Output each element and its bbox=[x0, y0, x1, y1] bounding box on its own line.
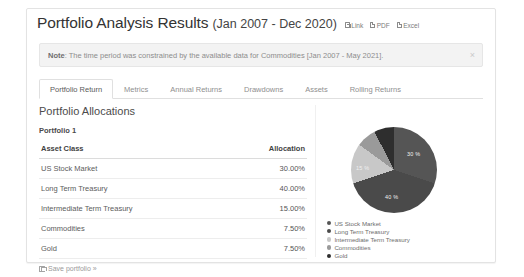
allocations-section: Portfolio Allocations Portfolio 1 Asset … bbox=[39, 105, 307, 272]
tab-portfolio-return[interactable]: Portfolio Return bbox=[39, 79, 113, 99]
table-row: Gold 7.50% bbox=[39, 239, 307, 259]
tab-metrics[interactable]: Metrics bbox=[113, 79, 159, 99]
column-allocation: Allocation bbox=[228, 139, 307, 159]
legend-color-swatch bbox=[327, 229, 331, 233]
legend-item: Intermediate Term Treasury bbox=[327, 235, 507, 243]
pie-slice-label-long-term-treasury: 40 % bbox=[385, 194, 398, 200]
legend-label: Gold bbox=[334, 252, 347, 259]
legend-label: Long Term Treasury bbox=[334, 228, 389, 235]
table-row: US Stock Market 30.00% bbox=[39, 159, 307, 179]
page-title: Portfolio Analysis Results bbox=[37, 14, 208, 32]
cell-allocation: 15.00% bbox=[228, 199, 307, 219]
note-body: : The time period was constrained by the… bbox=[65, 51, 384, 60]
note-prefix: Note bbox=[48, 51, 65, 60]
screenshot-root: Portfolio Analysis Results (Jan 2007 - D… bbox=[0, 0, 524, 277]
save-portfolio-link[interactable]: Save portfolio » bbox=[48, 265, 97, 272]
legend-label: US Stock Market bbox=[334, 220, 380, 227]
table-row: Commodities 7.50% bbox=[39, 219, 307, 239]
legend-label: Intermediate Term Treasury bbox=[334, 236, 410, 243]
link-export-pdf-label: PDF bbox=[377, 22, 390, 29]
portfolio-name: Portfolio 1 bbox=[39, 126, 307, 135]
page-title-row: Portfolio Analysis Results (Jan 2007 - D… bbox=[37, 14, 485, 36]
chart-legend: US Stock Market Long Term Treasury Inter… bbox=[327, 219, 507, 260]
note-alert: Note: The time period was constrained by… bbox=[39, 43, 483, 67]
cell-allocation: 7.50% bbox=[228, 239, 307, 259]
tab-drawdowns[interactable]: Drawdowns bbox=[233, 79, 294, 99]
legend-item: Commodities bbox=[327, 244, 507, 252]
pie-wrap: 30 % 40 % 15 % bbox=[351, 127, 437, 213]
cell-asset-class: Commodities bbox=[39, 219, 228, 239]
save-icon bbox=[39, 266, 45, 272]
cell-allocation: 30.00% bbox=[228, 159, 307, 179]
save-portfolio-row: Save portfolio » bbox=[39, 265, 307, 272]
pie-slice-label-intermediate-term-treasury: 15 % bbox=[356, 165, 369, 171]
pie-slice-label-us-stock-market: 30 % bbox=[407, 151, 420, 157]
link-export-excel-label: Excel bbox=[403, 22, 419, 29]
link-export-link-label: Link bbox=[351, 22, 363, 29]
cell-allocation: 40.00% bbox=[228, 179, 307, 199]
legend-item: Gold bbox=[327, 252, 507, 260]
legend-item: US Stock Market bbox=[327, 219, 507, 227]
export-links: Link PDF Excel bbox=[345, 22, 419, 29]
legend-item: Long Term Treasury bbox=[327, 227, 507, 235]
table-row: Intermediate Term Treasury 15.00% bbox=[39, 199, 307, 219]
cell-allocation: 7.50% bbox=[228, 219, 307, 239]
legend-color-swatch bbox=[327, 221, 331, 225]
tab-annual-returns[interactable]: Annual Returns bbox=[159, 79, 233, 99]
legend-color-swatch bbox=[327, 254, 331, 258]
tab-assets[interactable]: Assets bbox=[294, 79, 339, 99]
column-divider bbox=[315, 105, 316, 257]
link-export-pdf[interactable]: PDF bbox=[370, 22, 390, 29]
allocations-table: Asset Class Allocation US Stock Market 3… bbox=[39, 139, 307, 259]
document-icon bbox=[397, 22, 402, 28]
page-title-date-range: (Jan 2007 - Dec 2020) bbox=[212, 17, 336, 31]
legend-color-swatch bbox=[327, 237, 331, 241]
cell-asset-class: Long Term Treasury bbox=[39, 179, 228, 199]
allocation-pie-chart: 30 % 40 % 15 % US Stock Market Long Term… bbox=[323, 127, 513, 259]
table-row: Long Term Treasury 40.00% bbox=[39, 179, 307, 199]
note-text: Note: The time period was constrained by… bbox=[48, 51, 383, 60]
cell-asset-class: US Stock Market bbox=[39, 159, 228, 179]
document-icon bbox=[370, 22, 375, 28]
link-export-excel[interactable]: Excel bbox=[397, 22, 419, 29]
legend-label: Commodities bbox=[334, 244, 370, 251]
column-asset-class: Asset Class bbox=[39, 139, 228, 159]
section-title: Portfolio Allocations bbox=[39, 105, 307, 117]
tab-bar: Portfolio Return Metrics Annual Returns … bbox=[39, 79, 483, 99]
cell-asset-class: Intermediate Term Treasury bbox=[39, 199, 228, 219]
external-link-icon bbox=[345, 22, 350, 28]
legend-color-swatch bbox=[327, 245, 331, 249]
cell-asset-class: Gold bbox=[39, 239, 228, 259]
note-close-icon[interactable]: × bbox=[470, 51, 475, 60]
tab-rolling-returns[interactable]: Rolling Returns bbox=[339, 79, 412, 99]
results-panel: Portfolio Analysis Results (Jan 2007 - D… bbox=[26, 8, 496, 263]
table-header-row: Asset Class Allocation bbox=[39, 139, 307, 159]
link-export-link[interactable]: Link bbox=[345, 22, 363, 29]
